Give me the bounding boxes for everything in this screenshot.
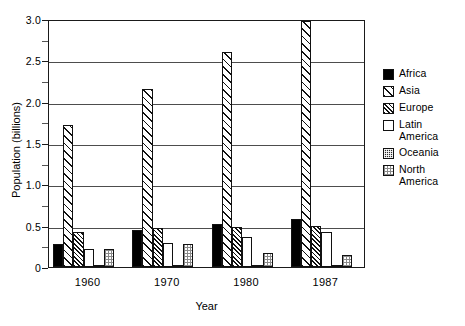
x-tick-label-1960: 1960 xyxy=(58,276,118,288)
bar-north-america-1970 xyxy=(183,244,193,267)
legend-swatch-icon xyxy=(383,69,394,80)
y-tick-label: 1.5 xyxy=(26,139,41,149)
bar-europe-1960 xyxy=(73,232,83,267)
bar-north-america-1987 xyxy=(342,255,352,267)
legend-item-europe[interactable]: Europe xyxy=(383,102,465,114)
y-tick-label: 2.5 xyxy=(26,56,41,66)
bar-group-1960 xyxy=(53,21,114,267)
bar-asia-1960 xyxy=(63,125,73,267)
bar-europe-1987 xyxy=(311,226,321,267)
legend-swatch-icon xyxy=(383,103,394,114)
population-bar-chart: Population (billions) 00.51.01.52.02.53.… xyxy=(0,0,465,326)
bar-north-america-1960 xyxy=(104,249,114,267)
bar-asia-1970 xyxy=(142,89,152,267)
legend-item-oceania[interactable]: Oceania xyxy=(383,147,465,159)
bar-group-1987 xyxy=(291,21,352,267)
bar-africa-1970 xyxy=(132,230,142,267)
y-tick-label: 0.5 xyxy=(26,222,41,232)
x-tick-label-1987: 1987 xyxy=(295,276,355,288)
legend-swatch-icon xyxy=(383,165,394,176)
legend-label: Asia xyxy=(399,85,420,97)
legend-label: Latin America xyxy=(399,119,438,142)
bar-africa-1980 xyxy=(212,224,222,267)
legend: AfricaAsiaEuropeLatin AmericaOceaniaNort… xyxy=(383,68,465,192)
bar-oceania-1987 xyxy=(332,265,342,267)
x-axis-title: Year xyxy=(0,300,413,312)
bar-north-america-1980 xyxy=(263,253,273,267)
y-tick-label: 1.0 xyxy=(26,180,41,190)
legend-label: Europe xyxy=(399,102,433,114)
bar-oceania-1960 xyxy=(94,265,104,267)
legend-label: North America xyxy=(399,164,438,187)
bar-asia-1987 xyxy=(301,21,311,267)
bar-group-1980 xyxy=(212,21,273,267)
legend-swatch-icon xyxy=(383,86,394,97)
legend-item-africa[interactable]: Africa xyxy=(383,68,465,80)
legend-swatch-icon xyxy=(383,148,394,159)
legend-label: Oceania xyxy=(399,147,439,159)
x-tick-label-1980: 1980 xyxy=(216,276,276,288)
bar-oceania-1980 xyxy=(252,265,262,267)
bar-africa-1960 xyxy=(53,244,63,267)
legend-swatch-icon xyxy=(383,120,394,131)
x-tick-label-1970: 1970 xyxy=(137,276,197,288)
bar-oceania-1970 xyxy=(173,265,183,267)
y-tick-label: 0 xyxy=(35,263,41,273)
bar-asia-1980 xyxy=(222,52,232,267)
bar-latin-america-1987 xyxy=(321,232,331,267)
bar-latin-america-1960 xyxy=(84,249,94,267)
bar-europe-1970 xyxy=(153,228,163,267)
y-tick-label: 2.0 xyxy=(26,98,41,108)
y-tick-major xyxy=(42,268,48,269)
plot-area xyxy=(48,20,365,268)
bar-latin-america-1980 xyxy=(242,237,252,267)
y-tick-label: 3.0 xyxy=(26,15,41,25)
y-axis: 00.51.01.52.02.53.0 xyxy=(0,0,48,290)
legend-label: Africa xyxy=(399,68,426,80)
bar-europe-1980 xyxy=(232,227,242,268)
legend-item-asia[interactable]: Asia xyxy=(383,85,465,97)
bar-africa-1987 xyxy=(291,219,301,267)
legend-item-north-america[interactable]: North America xyxy=(383,164,465,187)
bar-latin-america-1970 xyxy=(163,243,173,267)
legend-item-latin-america[interactable]: Latin America xyxy=(383,119,465,142)
bar-group-1970 xyxy=(132,21,193,267)
